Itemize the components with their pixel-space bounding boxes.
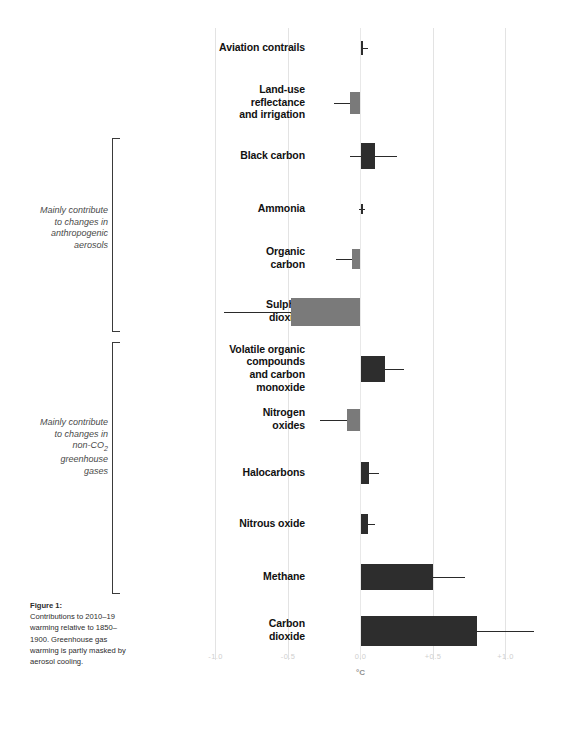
figure-caption: Figure 1: Contributions to 2010–19 warmi… (30, 600, 134, 667)
row-label-line: Organic (160, 245, 305, 258)
figure-caption-title: Figure 1: (30, 600, 134, 611)
row-label-carbon-dioxide: Carbondioxide (160, 617, 305, 642)
figure-caption-body: Contributions to 2010–19 warming relativ… (30, 612, 126, 666)
row-label-line: monoxide (160, 381, 305, 394)
bar-methane[interactable] (361, 564, 434, 590)
row-label-nitrous-oxide: Nitrous oxide (160, 517, 305, 530)
row-label-halocarbons: Halocarbons (160, 466, 305, 479)
row-label-black-carbon: Black carbon (160, 149, 305, 162)
row-label-line: Nitrous oxide (160, 517, 305, 530)
group-label-line: anthropogenic (0, 228, 108, 240)
group-bracket-non-co2-greenhouse-gases (112, 342, 120, 594)
row-label-line: Aviation contrails (160, 41, 305, 54)
bar-sulphur-dioxide[interactable] (291, 298, 361, 326)
bar-ammonia[interactable] (361, 204, 363, 214)
bar-land-use-reflectance-and-irrigation[interactable] (350, 92, 360, 114)
x-tick-label: -1.0 (208, 652, 223, 661)
row-label-line: Carbon (160, 617, 305, 630)
group-label-line: Mainly contribute (0, 417, 108, 429)
row-label-line: and carbon (160, 368, 305, 381)
group-label-line: non-CO2 (0, 440, 108, 454)
bar-organic-carbon[interactable] (352, 249, 361, 269)
group-label-line: Mainly contribute (0, 205, 108, 217)
row-label-sulphur-dioxide: Sulphurdioxide (160, 298, 305, 323)
bar-volatile-organic-compounds-and-carbon-monoxide[interactable] (361, 356, 386, 382)
row-label-line: Halocarbons (160, 466, 305, 479)
row-label-methane: Methane (160, 570, 305, 583)
row-label-line: Methane (160, 570, 305, 583)
row-label-line: Black carbon (160, 149, 305, 162)
bar-carbon-dioxide[interactable] (361, 616, 477, 646)
bar-aviation-contrails[interactable] (361, 41, 364, 55)
row-label-land-use-reflectance-and-irrigation: Land-usereflectanceand irrigation (160, 83, 305, 121)
chart-plot-area: -1.0-0.50.0+0.5+1.0°CAviation contrailsL… (0, 0, 575, 660)
x-axis-unit-label: °C (356, 668, 365, 677)
group-bracket-anthropogenic-aerosols (112, 138, 120, 332)
row-label-line: reflectance (160, 96, 305, 109)
group-label-line: gases (0, 466, 108, 478)
row-label-ammonia: Ammonia (160, 202, 305, 215)
group-label-anthropogenic-aerosols: Mainly contributeto changes inanthropoge… (0, 205, 108, 251)
gridline-+1.0 (505, 28, 506, 660)
x-tick-label: +0.5 (425, 652, 441, 661)
row-label-line: oxides (160, 419, 305, 432)
row-label-line: Land-use (160, 83, 305, 96)
row-label-line: dioxide (160, 630, 305, 643)
x-tick-label: -0.5 (281, 652, 296, 661)
group-label-line: greenhouse (0, 454, 108, 466)
row-label-line: Ammonia (160, 202, 305, 215)
group-label-line: aerosols (0, 240, 108, 252)
row-label-line: Volatile organic (160, 343, 305, 356)
row-label-line: Sulphur (160, 298, 305, 311)
group-label-line: to changes in (0, 217, 108, 229)
row-label-line: compounds (160, 355, 305, 368)
row-label-volatile-organic-compounds-and-carbon-monoxide: Volatile organiccompoundsand carbonmonox… (160, 343, 305, 393)
group-label-line: to changes in (0, 429, 108, 441)
row-label-organic-carbon: Organiccarbon (160, 245, 305, 270)
bar-black-carbon[interactable] (361, 143, 376, 169)
bar-nitrogen-oxides[interactable] (347, 409, 360, 431)
x-tick-label: +1.0 (497, 652, 513, 661)
row-label-line: Nitrogen (160, 406, 305, 419)
group-label-non-co2-greenhouse-gases: Mainly contributeto changes innon-CO2gre… (0, 417, 108, 477)
bar-halocarbons[interactable] (361, 462, 370, 484)
row-label-line: carbon (160, 258, 305, 271)
x-tick-label: 0.0 (355, 652, 367, 661)
row-label-line: and irrigation (160, 108, 305, 121)
row-label-aviation-contrails: Aviation contrails (160, 41, 305, 54)
figure-root: -1.0-0.50.0+0.5+1.0°CAviation contrailsL… (0, 0, 575, 729)
bar-nitrous-oxide[interactable] (361, 514, 368, 534)
row-label-nitrogen-oxides: Nitrogenoxides (160, 406, 305, 431)
